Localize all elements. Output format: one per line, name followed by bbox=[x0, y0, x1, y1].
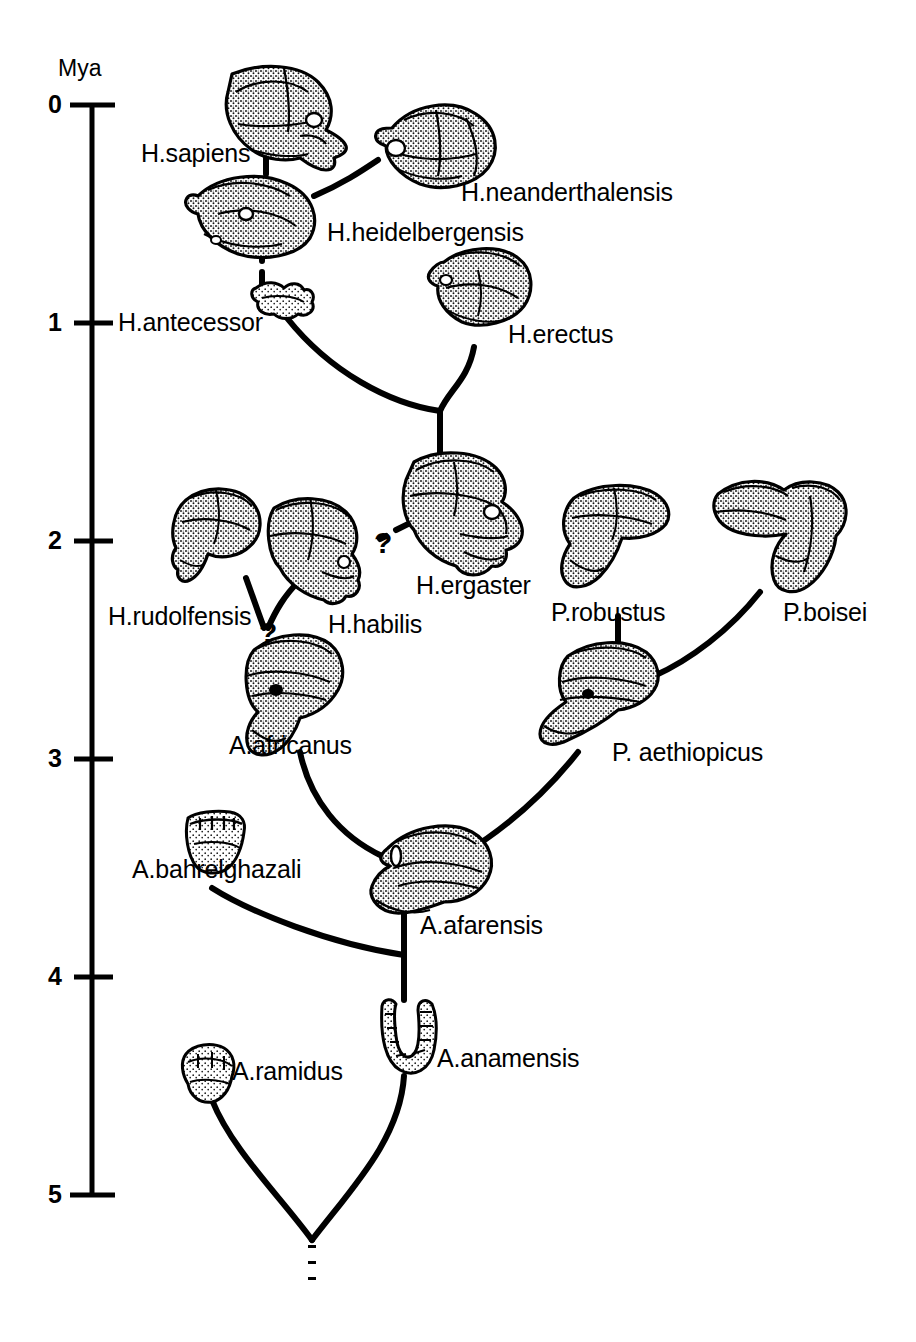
axis-tick-3: 3 bbox=[48, 744, 62, 773]
branch-antecessor-junction bbox=[287, 318, 440, 411]
axis-tick-0: 0 bbox=[48, 90, 62, 119]
branch-boisei-aethiopicus bbox=[654, 592, 760, 676]
specimen-p-boisei bbox=[714, 481, 846, 591]
specimen-a-ramidus bbox=[182, 1045, 234, 1103]
taxon-label-a-afarensis: A.afarensis bbox=[420, 913, 543, 938]
taxon-label-h-neanderthalensis: H.neanderthalensis bbox=[461, 180, 673, 205]
taxon-label-a-bahrelghazali: A.bahrelghazali bbox=[132, 857, 301, 882]
specimen-a-anamensis bbox=[382, 1000, 437, 1073]
axis-tick-4: 4 bbox=[48, 962, 62, 991]
taxon-label-h-habilis: H.habilis bbox=[328, 612, 422, 637]
branch-ramidus-root bbox=[212, 1100, 312, 1240]
phylogeny-drawing bbox=[0, 0, 916, 1342]
uncertainty-marker-africanus-habilis: ? bbox=[259, 616, 277, 650]
taxon-label-h-ergaster: H.ergaster bbox=[416, 573, 531, 598]
uncertainty-marker-habilis-ergaster: ? bbox=[374, 526, 392, 560]
specimen-p-robustus bbox=[562, 485, 669, 586]
axis-tick-5: 5 bbox=[48, 1180, 62, 1209]
axis-tick-2: 2 bbox=[48, 526, 62, 555]
specimen-p-aethiopicus bbox=[540, 643, 658, 745]
axis-tick-1: 1 bbox=[48, 308, 62, 337]
taxon-label-p-aethiopicus: P. aethiopicus bbox=[612, 740, 763, 765]
specimen-h-ergaster bbox=[403, 453, 522, 575]
specimen-h-neanderthalensis bbox=[376, 105, 496, 187]
axis-title-mya: Mya bbox=[58, 55, 101, 82]
taxon-label-h-sapiens: H.sapiens bbox=[141, 141, 250, 166]
branch-africanus-afarensis bbox=[300, 752, 382, 856]
time-axis bbox=[70, 105, 115, 1195]
specimen-h-rudolfensis bbox=[172, 489, 260, 581]
specimen-h-erectus bbox=[428, 249, 530, 326]
figure-canvas: Mya 0 1 2 3 4 5 H.sapiens H.neanderthale… bbox=[0, 0, 916, 1342]
taxon-label-p-robustus: P.robustus bbox=[551, 600, 665, 625]
specimen-h-habilis bbox=[268, 498, 359, 603]
taxon-label-h-antecessor: H.antecessor bbox=[118, 310, 263, 335]
branch-erectus-junction bbox=[440, 347, 474, 411]
taxon-label-h-heidelbergensis: H.heidelbergensis bbox=[327, 220, 524, 245]
taxon-label-h-erectus: H.erectus bbox=[508, 322, 613, 347]
taxon-label-h-rudolfensis: H.rudolfensis bbox=[108, 604, 251, 629]
taxon-label-p-boisei: P.boisei bbox=[783, 600, 867, 625]
specimen-a-afarensis bbox=[371, 826, 492, 913]
taxon-label-a-africanus: A.africanus bbox=[229, 733, 352, 758]
taxon-label-a-anamensis: A.anamensis bbox=[437, 1046, 579, 1071]
specimen-h-heidelbergensis bbox=[186, 176, 315, 257]
branch-anamensis-root bbox=[312, 1076, 404, 1240]
taxon-label-a-ramidus: A.ramidus bbox=[232, 1059, 343, 1084]
